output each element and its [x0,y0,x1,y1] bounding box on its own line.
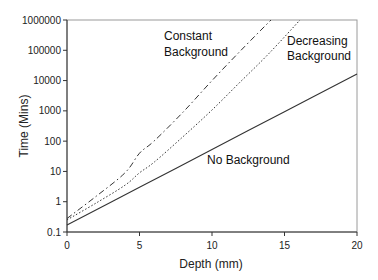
annotation-constant-line1: Constant [164,29,213,43]
y-tick-label: 100000 [28,45,62,56]
x-tick-label: 0 [64,240,70,251]
annotation-no-background: No Background [207,153,290,167]
annotation-decreasing-line2: Background [287,49,351,63]
y-tick-label: 10 [50,166,62,177]
y-tick-label: 1 [55,196,61,207]
chart: 0.1110100100010000100000100000005101520 … [0,0,378,280]
y-tick-label: 0.1 [47,227,61,238]
y-tick-label: 1000 [39,105,62,116]
annotation-decreasing-line1: Decreasing [287,34,348,48]
series-line-no-background [67,74,357,225]
x-axis-title: Depth (mm) [179,257,242,271]
y-axis-title: Time (Mins) [17,95,31,158]
x-tick-label: 10 [206,240,218,251]
x-tick-label: 5 [137,240,143,251]
y-tick-label: 100 [44,136,61,147]
y-tick-label: 10000 [33,75,61,86]
y-tick-label: 1000000 [22,15,61,26]
x-tick-label: 20 [351,240,363,251]
x-tick-label: 15 [279,240,291,251]
annotation-constant-line2: Background [164,45,228,59]
plot-area: 0.1110100100010000100000100000005101520 … [0,0,378,280]
